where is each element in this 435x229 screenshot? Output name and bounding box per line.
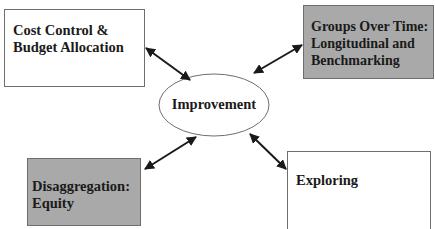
arrow-groups-over-time <box>254 45 302 73</box>
diagram-canvas: Cost Control & Budget Allocation Groups … <box>0 0 435 229</box>
arrow-disaggregation <box>145 137 196 169</box>
connectors-layer <box>0 0 435 229</box>
arrow-cost-control <box>146 48 190 80</box>
center-label: Improvement <box>159 96 269 113</box>
arrow-exploring <box>250 134 286 169</box>
